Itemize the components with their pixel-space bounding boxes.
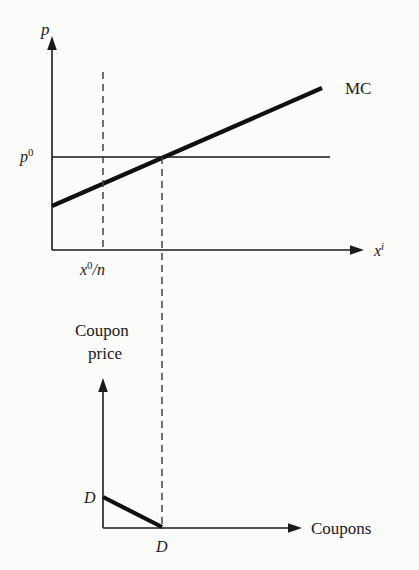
- economics-diagram: p xi p0 x0/n MC Coupon price Coupons D D: [0, 0, 419, 570]
- lower-x-axis-label: Coupons: [311, 519, 371, 538]
- lower-y-axis-label-line2: price: [88, 344, 122, 363]
- lower-y-axis-arrowhead: [98, 378, 108, 392]
- upper-x-axis-arrowhead: [350, 245, 364, 255]
- figure-root: p xi p0 x0/n MC Coupon price Coupons D D: [0, 0, 419, 570]
- upper-x-axis-label-base: x: [373, 242, 381, 259]
- demand-quantity-label: D: [155, 538, 168, 555]
- upper-x-axis-label-sup: i: [381, 240, 384, 252]
- coupon-demand-curve: [103, 497, 162, 527]
- upper-panel: p xi p0 x0/n MC: [19, 20, 384, 528]
- quantity-tick-label: x0/n: [79, 259, 105, 278]
- price-level-label-base: p: [19, 148, 28, 166]
- price-level-label: p0: [19, 146, 34, 166]
- upper-y-axis-label: p: [40, 20, 50, 39]
- lower-y-axis-label-line1: Coupon: [75, 321, 129, 340]
- price-level-label-sup: 0: [28, 146, 34, 158]
- upper-x-axis-label: xi: [373, 240, 384, 259]
- marginal-cost-curve: [52, 88, 322, 206]
- quantity-tick-label-base: x: [79, 261, 87, 278]
- quantity-tick-label-tail: /n: [92, 261, 105, 278]
- demand-intercept-label: D: [83, 489, 96, 506]
- lower-x-axis-arrowhead: [288, 523, 302, 533]
- marginal-cost-curve-label: MC: [345, 79, 371, 98]
- lower-panel: Coupon price Coupons D D: [75, 321, 371, 555]
